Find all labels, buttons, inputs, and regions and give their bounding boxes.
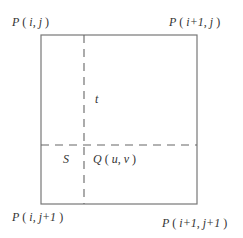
t-label: t xyxy=(95,92,98,106)
cell-square xyxy=(41,35,197,204)
q-point-label: Q ( u, v ) xyxy=(93,152,136,166)
corner-label-bottom-left: P ( i, j+1 ) xyxy=(12,210,63,224)
s-label: S xyxy=(63,152,69,166)
diagram-canvas xyxy=(0,0,243,238)
corner-label-bottom-right: P ( i+1, j+1 ) xyxy=(162,216,227,230)
corner-label-top-right: P ( i+1, j ) xyxy=(169,15,220,29)
bilinear-interpolation-diagram: P ( i, j ) P ( i+1, j ) P ( i, j+1 ) P (… xyxy=(0,0,243,238)
corner-label-top-left: P ( i, j ) xyxy=(12,15,49,29)
